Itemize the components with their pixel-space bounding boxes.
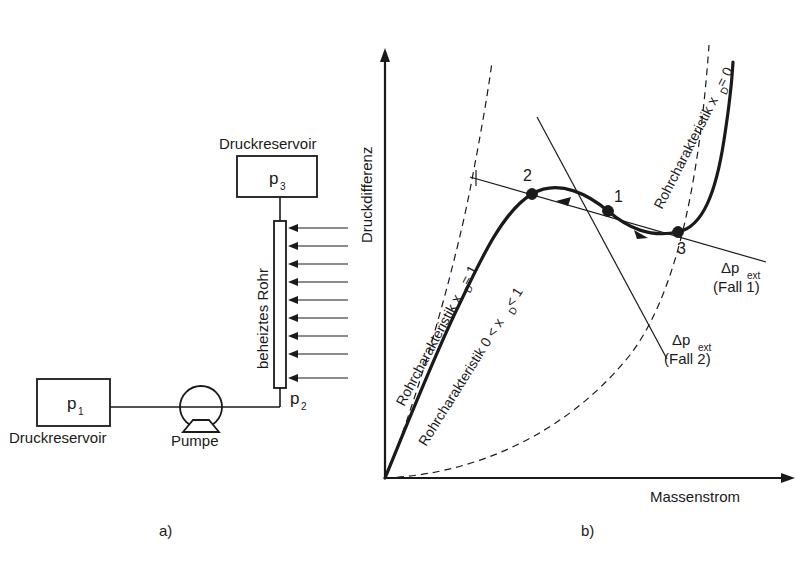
- operating-point-2-label: 2: [523, 167, 532, 184]
- fall1-symbol: Δp: [721, 259, 739, 276]
- curve-label-xd-1: Rohrcharakteristik x D = 1: [393, 262, 484, 410]
- fall1-case: (Fall 1): [713, 278, 760, 295]
- figure-container: p 1 p 2 p 3 Druckreservoir Druckreservoi…: [0, 0, 808, 569]
- x-axis-arrowhead: [781, 473, 795, 483]
- curve-label-xd-between-tail: < 1: [502, 284, 526, 309]
- x-axis-label: Massenstrom: [650, 488, 740, 505]
- fall2-case: (Fall 2): [664, 350, 711, 367]
- panel-b-letter: b): [581, 522, 594, 539]
- label-delta-p-ext-fall1: Δp ext (Fall 1): [713, 259, 761, 295]
- operating-point-3-dot: [673, 227, 684, 238]
- operating-point-3-label: 3: [677, 240, 686, 257]
- fall2-symbol: Δp: [672, 331, 690, 348]
- y-axis-label: Druckdifferenz: [358, 147, 375, 243]
- y-axis-arrowhead: [380, 48, 390, 62]
- panel-b-chart: 2 1 3 Druckdifferenz Massenstrom Rohrcha…: [0, 0, 808, 569]
- curve-label-xd-0: Rohrcharakteristik x D = 0: [650, 64, 739, 213]
- operating-point-1-dot: [603, 206, 614, 217]
- label-delta-p-ext-fall2: Δp ext (Fall 2): [664, 331, 712, 367]
- operating-point-1-label: 1: [614, 188, 623, 205]
- flow-arrow-towards-2: [556, 197, 571, 206]
- flow-direction-arrows: [556, 197, 648, 239]
- operating-point-2-dot: [527, 189, 538, 200]
